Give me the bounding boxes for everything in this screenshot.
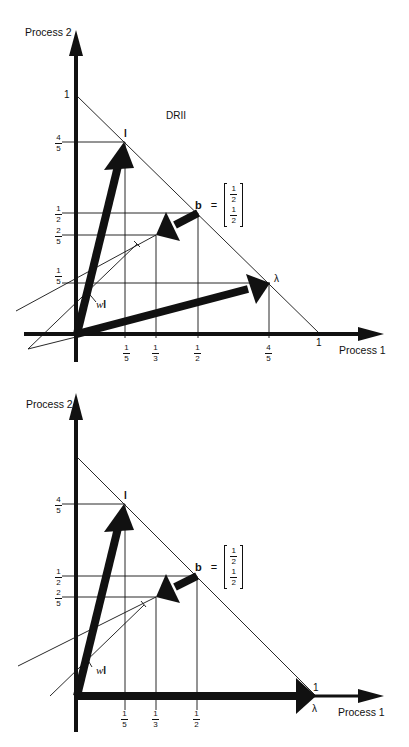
top-wl-label: wl bbox=[96, 298, 106, 310]
top-b-component-2: 12 bbox=[230, 206, 237, 225]
bottom-y-tick-1-2: 12 bbox=[55, 568, 62, 587]
bottom-b-vector-bracket: 12 12 bbox=[224, 545, 243, 589]
bottom-y-tick-2-5: 25 bbox=[55, 589, 62, 608]
top-x-tick-1: 1 bbox=[316, 337, 322, 348]
bottom-x-axis-arrowhead bbox=[358, 689, 384, 703]
top-y-tick-1: 1 bbox=[64, 89, 70, 100]
bottom-b-component-2: 12 bbox=[230, 568, 237, 587]
top-region-label: DRII bbox=[166, 110, 186, 121]
top-point-l-label: l bbox=[124, 128, 127, 139]
diagram-canvas bbox=[0, 0, 409, 747]
top-b-vector-bracket: 12 12 bbox=[224, 183, 243, 227]
top-wl-line-c bbox=[28, 337, 76, 349]
bottom-x-axis-title: Process 1 bbox=[338, 706, 385, 718]
top-x-axis-arrowhead bbox=[358, 327, 384, 341]
bottom-vector-b bbox=[175, 576, 197, 587]
top-x-axis-title: Process 1 bbox=[339, 344, 386, 356]
top-vector-lambda bbox=[77, 289, 248, 334]
top-vector-l-head bbox=[104, 142, 134, 170]
bottom-x-tick-1-2: 12 bbox=[193, 710, 200, 729]
top-y-tick-1-2: 12 bbox=[55, 205, 62, 224]
bottom-b-equation: b = 12 12 bbox=[195, 545, 243, 589]
top-y-tick-1-5: 15 bbox=[55, 267, 62, 286]
bottom-b-component-1: 12 bbox=[230, 547, 237, 566]
top-b-equation: b = 12 12 bbox=[195, 183, 243, 227]
top-point-lambda-label: λ bbox=[274, 273, 279, 284]
bottom-wl-label: wl bbox=[96, 664, 106, 676]
top-vector-lambda-head bbox=[246, 274, 270, 304]
bottom-x-tick-1-3: 13 bbox=[152, 710, 159, 729]
top-x-tick-4-5: 45 bbox=[265, 344, 272, 363]
top-x-tick-1-2: 12 bbox=[194, 344, 201, 363]
bottom-point-lambda-label: λ bbox=[312, 703, 317, 714]
bottom-x-tick-1: 1 bbox=[313, 682, 319, 693]
top-y-tick-2-5: 25 bbox=[55, 227, 62, 246]
top-x-tick-1-3: 13 bbox=[152, 344, 159, 363]
top-x-tick-1-5: 15 bbox=[123, 344, 130, 363]
bottom-y-axis-title: Process 2 bbox=[26, 398, 73, 410]
bottom-point-l-label: l bbox=[124, 490, 127, 501]
bottom-y-tick-4-5: 45 bbox=[55, 496, 62, 515]
bottom-vector-l-head bbox=[104, 504, 134, 532]
top-y-tick-4-5: 45 bbox=[55, 134, 62, 153]
top-y-axis-title: Process 2 bbox=[25, 26, 72, 38]
bottom-x-tick-1-5: 15 bbox=[121, 710, 128, 729]
top-b-component-1: 12 bbox=[230, 185, 237, 204]
